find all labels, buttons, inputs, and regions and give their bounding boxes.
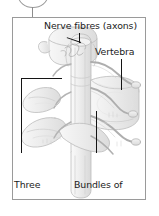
label-bundles-line-1: Bundles of [74,179,134,191]
label-nerve-fibres: Nerve fibres (axons) [44,20,137,32]
label-membranes-line-2: protective [14,214,69,216]
label-bundles-line-2: nerves going [74,214,134,216]
label-vertebra: Vertebra [95,46,135,58]
label-membranes-line-1: Three [14,179,69,191]
leader-line-nerve-bundles [96,111,97,153]
leader-line-membranes-vertical [21,78,22,153]
leader-line-membranes-horizontal [21,78,62,79]
label-bundles-of-nerves: Bundles of nerves going to the body [74,156,134,216]
leader-line-vertebra [121,59,122,90]
figure-container: Nerve fibres (axons) Vertebra Three prot… [0,0,159,216]
label-three-protective-membranes: Three protective membranes [14,156,69,216]
